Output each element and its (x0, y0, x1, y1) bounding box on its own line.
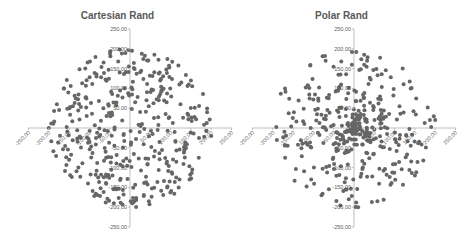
y-tick-label: -150,00 (108, 184, 127, 190)
y-tick-label: 250,00 (334, 26, 351, 32)
y-tick-label: 150,00 (110, 66, 127, 72)
y-tick-label: 200,00 (334, 46, 351, 52)
y-tick-label: -200,00 (332, 204, 351, 210)
y-tick-label: -250,00 (332, 224, 351, 230)
y-tick-label: -50,00 (111, 145, 127, 151)
y-tick-label: 100,00 (110, 85, 127, 91)
y-tick-label: 200,00 (110, 46, 127, 52)
y-tick-label: -150,00 (332, 184, 351, 190)
y-tick-label: -50,00 (335, 145, 351, 151)
x-tick-label: -200,00 (258, 129, 275, 146)
y-tick-label: 250,00 (110, 26, 127, 32)
y-tick-label: -250,00 (108, 224, 127, 230)
x-tick-label: 200,00 (422, 129, 438, 145)
y-tick-label: 50,00 (113, 105, 127, 111)
cartesian-rand-chart: Cartesian Rand 250,00200,00150,00100,005… (0, 0, 235, 241)
y-tick-label: 100,00 (334, 85, 351, 91)
scatter-plot-area: 250,00200,00150,00100,0050,00-50,00-100,… (0, 0, 235, 241)
x-tick-label: 250,00 (442, 129, 458, 145)
x-tick-label: -250,00 (14, 129, 31, 146)
x-tick-label: -200,00 (34, 129, 51, 146)
y-tick-label: -100,00 (108, 165, 127, 171)
scatter-plot-area: 250,00200,00150,00100,0050,00-50,00-100,… (224, 0, 459, 241)
x-tick-label: -250,00 (238, 129, 255, 146)
y-tick-label: -100,00 (332, 165, 351, 171)
x-tick-label: -150,00 (54, 129, 71, 146)
y-tick-label: 50,00 (337, 105, 351, 111)
x-tick-label: 100,00 (157, 129, 173, 145)
y-tick-label: -200,00 (108, 204, 127, 210)
polar-rand-chart: Polar Rand 250,00200,00150,00100,0050,00… (224, 0, 459, 241)
y-tick-label: 150,00 (334, 66, 351, 72)
